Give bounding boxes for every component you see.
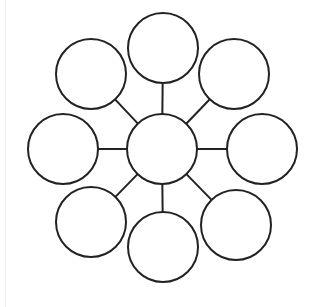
node-top-right xyxy=(199,39,269,109)
center-node xyxy=(127,114,197,184)
node-bottom xyxy=(128,212,198,282)
node-bottom-left xyxy=(56,187,126,257)
node-top-left xyxy=(56,39,126,109)
bubble-diagram xyxy=(0,0,312,307)
node-right xyxy=(227,114,297,184)
node-bottom-right xyxy=(201,190,271,260)
node-top xyxy=(128,13,198,83)
connector-node-bottom-left xyxy=(115,174,137,197)
connector-node-bottom-right xyxy=(186,174,211,200)
node-left xyxy=(28,114,98,184)
connector-node-top-right xyxy=(186,99,210,124)
connector-node-top-left xyxy=(115,99,138,123)
